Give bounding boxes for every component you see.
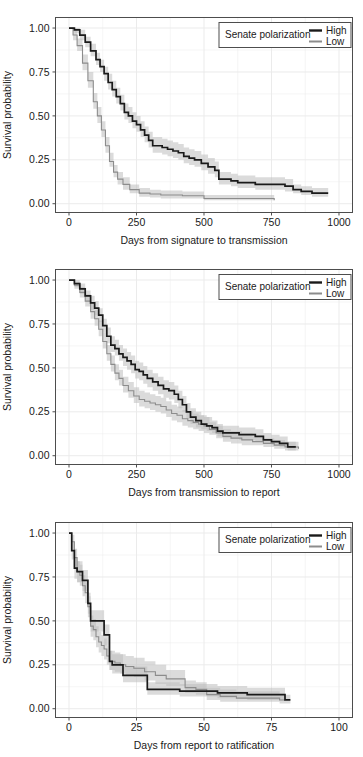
panel-report-to-ratification: 02550751000.000.250.500.751.00Days from … [0,505,363,757]
legend[interactable]: Senate polarizationHighLow [219,275,351,300]
x-tick-label: 75 [266,722,278,733]
legend-title: Senate polarization [225,29,310,40]
x-tick-label: 0 [66,217,72,228]
legend-title: Senate polarization [225,281,310,292]
x-axis-title: Days from report to ratification [134,740,275,751]
y-tick-label: 0.00 [29,703,50,714]
legend-key-label-low[interactable]: Low [326,288,345,299]
x-tick-label: 1000 [327,217,350,228]
x-tick-label: 1000 [327,470,350,481]
panel-plot: 02550751000.000.250.500.751.00Days from … [0,505,363,757]
x-tick-label: 50 [198,722,210,733]
y-tick-label: 0.75 [29,67,50,78]
y-tick-label: 0.75 [29,319,50,330]
y-tick-label: 0.50 [29,111,50,122]
x-tick-label: 750 [263,470,281,481]
y-tick-label: 1.00 [29,23,50,34]
legend-title: Senate polarization [225,534,310,545]
y-tick-label: 0.75 [29,571,50,582]
x-tick-label: 250 [128,470,146,481]
legend-key-label-low[interactable]: Low [326,541,345,552]
x-tick-label: 25 [131,722,143,733]
x-tick-label: 0 [66,470,72,481]
y-tick-label: 1.00 [29,275,50,286]
survival-figure: 025050075010000.000.250.500.751.00Days f… [0,0,363,757]
x-tick-label: 500 [195,217,213,228]
x-tick-label: 750 [263,217,281,228]
legend-key-label-high[interactable]: High [326,277,347,288]
y-tick-label: 1.00 [29,527,50,538]
x-tick-label: 0 [66,722,72,733]
x-tick-label: 500 [195,470,213,481]
legend-key-label-high[interactable]: High [326,25,347,36]
panel-plot: 025050075010000.000.250.500.751.00Days f… [0,252,363,504]
legend-key-label-low[interactable]: Low [326,36,345,47]
y-tick-label: 0.50 [29,615,50,626]
y-tick-label: 0.25 [29,154,50,165]
legend[interactable]: Senate polarizationHighLow [219,22,351,47]
x-axis-title: Days from transmission to report [128,488,280,499]
y-axis-title: Survival probability [2,575,13,664]
legend[interactable]: Senate polarizationHighLow [219,527,351,552]
y-tick-label: 0.25 [29,659,50,670]
x-axis-title: Days from signature to transmission [120,235,287,246]
y-axis-title: Survival probability [2,70,13,159]
panel-transmission-to-report: 025050075010000.000.250.500.751.00Days f… [0,252,363,504]
y-tick-label: 0.50 [29,363,50,374]
x-tick-label: 100 [330,722,348,733]
y-axis-title: Survival probability [2,323,13,412]
y-tick-label: 0.25 [29,407,50,418]
panel-plot: 025050075010000.000.250.500.751.00Days f… [0,0,363,252]
legend-key-label-high[interactable]: High [326,530,347,541]
y-tick-label: 0.00 [29,198,50,209]
x-tick-label: 250 [128,217,146,228]
y-tick-label: 0.00 [29,451,50,462]
panel-signature-to-transmission: 025050075010000.000.250.500.751.00Days f… [0,0,363,252]
